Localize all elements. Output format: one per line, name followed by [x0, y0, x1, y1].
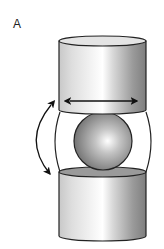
lower-cylinder — [59, 167, 146, 241]
upper-cylinder-cap — [59, 36, 146, 46]
upper-cylinder — [59, 36, 146, 114]
rotation-arrow — [36, 105, 51, 174]
housing-right-outline — [146, 112, 151, 172]
joint-diagram — [0, 0, 164, 249]
housing-left-outline — [55, 112, 60, 172]
sphere — [74, 112, 132, 170]
